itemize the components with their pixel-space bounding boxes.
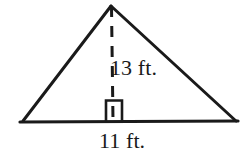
height-dimension-label: 13 ft. xyxy=(110,57,157,79)
triangle-figure: 13 ft. 11 ft. xyxy=(0,0,244,161)
triangle-base xyxy=(20,121,238,122)
triangle-left-side xyxy=(23,6,111,121)
base-dimension-label: 11 ft. xyxy=(99,130,145,152)
